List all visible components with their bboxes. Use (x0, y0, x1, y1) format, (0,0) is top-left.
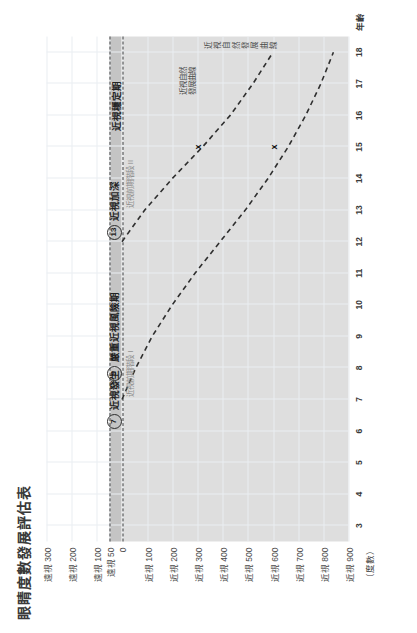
y-axis-tick-label: 近視 100 (141, 547, 153, 582)
stage-badge: 13 (106, 224, 121, 239)
y-axis-tick-label: 遠視 300 (40, 547, 52, 582)
y-axis-tick-label: 0 (117, 547, 127, 552)
stage-sublabel: 近視前期階段 I (123, 350, 134, 396)
stage-badge: 7 (106, 413, 121, 428)
x-axis-tick-label: 13 (353, 205, 363, 214)
stage-label: 嚴重近視風險期 (107, 291, 121, 361)
x-axis-tick-label: 12 (353, 236, 363, 245)
x-axis-tick-label: 3 (353, 523, 363, 528)
x-axis-tick-label: 15 (353, 142, 363, 151)
stage-label: 近視加深 (107, 180, 121, 220)
x-axis-tick-label: 8 (353, 365, 363, 370)
chart-canvas: 眼睛度數發展評估表 xx 遠視 300遠視 200遠視 100遠視 500近視 … (0, 0, 417, 633)
y-axis-title: （度數） (362, 545, 374, 581)
y-axis-tick-label: 近視 800 (317, 547, 329, 582)
stage-annotation: 9嚴重近視風險期 (106, 291, 121, 380)
x-axis-tick-label: 7 (353, 397, 363, 402)
stage-badge: 9 (106, 365, 121, 380)
y-axis-tick-label: 近視 500 (241, 547, 253, 582)
y-axis-tick-label: 近視 300 (191, 547, 203, 582)
curve-callout-label: 近視自然 發展曲線 (203, 41, 278, 50)
curve-marker: x (268, 144, 278, 149)
curve-marker: x (192, 144, 202, 149)
y-axis-tick-label: 近視 400 (216, 547, 228, 582)
x-axis-tick-label: 17 (353, 79, 363, 88)
x-axis-tick-label: 5 (353, 460, 363, 465)
stage-label: 近視穩定期 (108, 80, 122, 130)
y-axis-tick-label: 近視 600 (267, 547, 279, 582)
y-axis-tick-label: 遠視 100 (90, 547, 102, 582)
progression-curve (122, 52, 333, 399)
x-axis-tick-label: 4 (353, 491, 363, 496)
x-axis-tick-label: 16 (353, 110, 363, 119)
curve-callout-label: 近視自然 發展曲線 (178, 66, 197, 94)
plot-area: xx 遠視 300遠視 200遠視 100遠視 500近視 100近視 200近… (46, 36, 348, 541)
stage-annotation: 近視穩定期 (108, 80, 122, 130)
x-axis-tick-label: 6 (353, 428, 363, 433)
x-axis-tick-label: 10 (353, 300, 363, 309)
y-axis-tick-label: 近視 200 (166, 547, 178, 582)
x-axis-title: 年齡 (352, 12, 364, 30)
progression-curves (46, 36, 348, 541)
stage-annotation: 13近視加深 (106, 180, 121, 239)
page-title: 眼睛度數發展評估表 (12, 484, 32, 619)
y-axis-tick-label: 遠視 50 (103, 547, 115, 577)
y-axis-tick-label: 遠視 200 (65, 547, 77, 582)
y-axis-tick-label: 近視 700 (292, 547, 304, 582)
y-axis-tick-label: 近視 900 (342, 547, 354, 582)
stage-sublabel: 近視前期階段 II (123, 159, 134, 207)
x-axis-tick-label: 11 (353, 268, 363, 277)
x-axis-tick-label: 14 (353, 173, 363, 182)
x-axis-tick-label: 18 (353, 47, 363, 56)
x-axis-tick-label: 9 (353, 333, 363, 338)
